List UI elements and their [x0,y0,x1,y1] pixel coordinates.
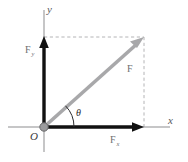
y-axis-label: y [46,3,52,15]
force-x-label-subscript: x [116,140,120,147]
force-x-label-group: F x [110,134,120,147]
force-x-vector [44,122,144,132]
force-y-arrowhead [39,36,49,48]
force-y-vector [39,36,49,127]
theta-label: θ [76,107,81,118]
resultant-force-shaft [44,43,138,127]
resultant-force-label: F [127,63,133,74]
x-axis-label: x [167,114,173,126]
force-x-arrowhead [132,122,144,132]
origin-dot [40,123,48,131]
force-y-label: F [25,44,31,55]
force-vector-diagram: y x O F y F x F θ [0,0,188,162]
origin-label: O [30,130,38,142]
resultant-force-vector [44,37,144,127]
force-y-label-group: F y [25,44,35,57]
force-x-label: F [110,134,116,145]
diagram-canvas: y x O F y F x F θ [0,0,188,162]
force-y-label-subscript: y [31,50,35,57]
